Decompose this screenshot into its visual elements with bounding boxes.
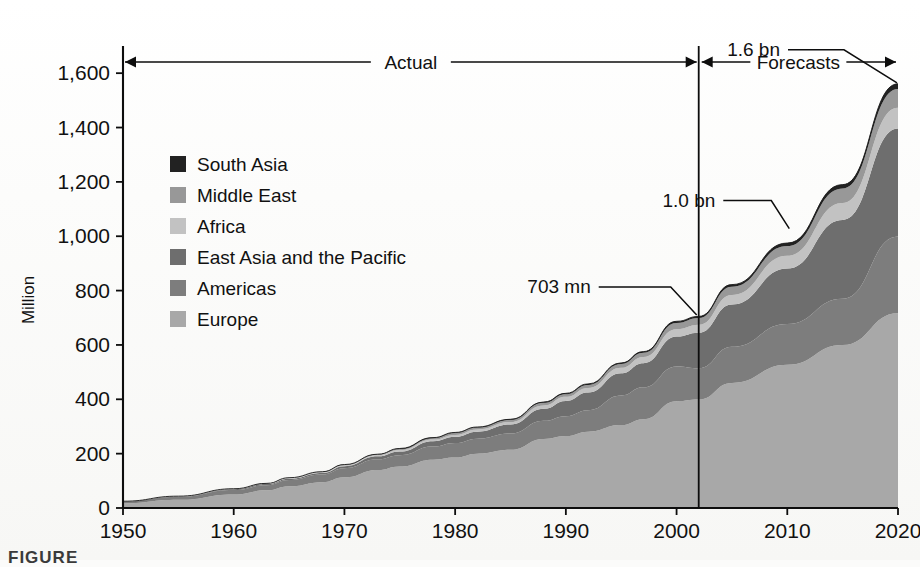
actual-arrowhead-right bbox=[686, 57, 697, 68]
actual-arrowhead-left bbox=[125, 57, 136, 68]
legend-swatch-east-asia-and-the-pacific bbox=[170, 249, 186, 265]
y-tick-label: 1,200 bbox=[57, 170, 110, 193]
y-tick-label: 0 bbox=[98, 496, 110, 519]
x-tick-label: 2020 bbox=[875, 519, 920, 542]
y-tick-label: 600 bbox=[75, 333, 110, 356]
forecast-arrowhead-right bbox=[885, 57, 896, 68]
y-tick-label: 800 bbox=[75, 279, 110, 302]
x-tick-label: 2010 bbox=[764, 519, 811, 542]
callout-label-10bn: 1.0 bn bbox=[662, 190, 715, 211]
legend-label-south-asia: South Asia bbox=[197, 154, 288, 175]
legend-label-middle-east: Middle East bbox=[197, 185, 297, 206]
actual-period-label: Actual bbox=[384, 52, 437, 73]
legend-swatch-americas bbox=[170, 280, 186, 296]
legend-swatch-europe bbox=[170, 311, 186, 327]
y-tick-label: 1,400 bbox=[57, 116, 110, 139]
legend-label-africa: Africa bbox=[197, 216, 246, 237]
figure-caption: FIGURE bbox=[8, 548, 78, 567]
y-tick-label: 200 bbox=[75, 442, 110, 465]
y-axis-title: Million bbox=[19, 276, 38, 324]
x-tick-label: 2000 bbox=[653, 519, 700, 542]
callout-leader-703mn bbox=[599, 287, 697, 315]
x-tick-label: 1960 bbox=[210, 519, 257, 542]
y-tick-label: 1,600 bbox=[57, 61, 110, 84]
legend-swatch-south-asia bbox=[170, 156, 186, 172]
legend-swatch-middle-east bbox=[170, 187, 186, 203]
legend-label-americas: Americas bbox=[197, 278, 276, 299]
callout-label-703mn: 703 mn bbox=[527, 276, 590, 297]
x-tick-label: 1990 bbox=[542, 519, 589, 542]
legend-label-europe: Europe bbox=[197, 309, 258, 330]
legend-label-east-asia-and-the-pacific: East Asia and the Pacific bbox=[197, 247, 406, 268]
forecast-arrowhead-left bbox=[702, 57, 713, 68]
callout-label-16bn: 1.6 bn bbox=[727, 39, 780, 60]
legend-swatch-africa bbox=[170, 218, 186, 234]
x-tick-label: 1980 bbox=[432, 519, 479, 542]
x-tick-label: 1970 bbox=[321, 519, 368, 542]
y-tick-label: 400 bbox=[75, 387, 110, 410]
x-tick-label: 1950 bbox=[100, 519, 147, 542]
callout-leader-10bn bbox=[723, 201, 789, 229]
y-tick-label: 1,000 bbox=[57, 224, 110, 247]
